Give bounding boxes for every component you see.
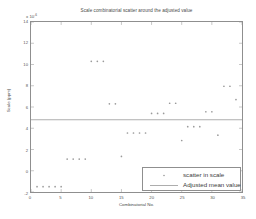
chart-legend: scatter in scale Adjusted mean value bbox=[142, 167, 241, 191]
y-tick-label: 2 bbox=[14, 148, 28, 153]
x-tick-label: 30 bbox=[205, 195, 221, 200]
x-axis-title: Combinatorial No. bbox=[30, 202, 243, 207]
x-tick-label: 0 bbox=[22, 195, 38, 200]
legend-marker-line-icon bbox=[147, 180, 181, 191]
x-axis-tick-labels: 05101520253035 bbox=[30, 195, 243, 202]
y-axis-title: Scale (ppm) bbox=[6, 81, 11, 121]
legend-label-scatter: scatter in scale bbox=[183, 171, 224, 179]
x-tick-label: 15 bbox=[113, 195, 129, 200]
y-axis-tick-labels: -202468101214 bbox=[12, 21, 28, 193]
y-tick-label: 12 bbox=[14, 40, 28, 45]
y-tick-label: 4 bbox=[14, 126, 28, 131]
y-tick-label: 14 bbox=[14, 19, 28, 24]
y-tick-label: 10 bbox=[14, 62, 28, 67]
y-tick-label: 8 bbox=[14, 83, 28, 88]
figure-canvas: Scale combinatorial scatter around the a… bbox=[0, 0, 256, 219]
y-axis-exponent-power: -6 bbox=[34, 13, 37, 17]
legend-entry-mean: Adjusted mean value bbox=[143, 180, 242, 191]
y-tick-label: 6 bbox=[14, 105, 28, 110]
x-tick-label: 5 bbox=[52, 195, 68, 200]
y-tick-label: 0 bbox=[14, 169, 28, 174]
x-tick-label: 10 bbox=[83, 195, 99, 200]
x-tick-label: 35 bbox=[235, 195, 251, 200]
x-tick-label: 20 bbox=[144, 195, 160, 200]
x-tick-label: 25 bbox=[174, 195, 190, 200]
legend-label-mean: Adjusted mean value bbox=[183, 181, 241, 189]
chart-title: Scale combinatorial scatter around the a… bbox=[30, 8, 243, 14]
